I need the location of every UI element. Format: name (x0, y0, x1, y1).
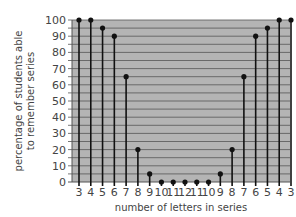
y-tick-label: 70 (52, 63, 66, 76)
x-tick-label: 4 (276, 186, 283, 199)
x-tick-label: 9 (146, 186, 153, 199)
data-point (182, 179, 187, 184)
y-axis-label-line: to remember series (25, 52, 36, 150)
x-tick-label: 6 (252, 186, 259, 199)
y-axis-ticks: 0102030405060708090100 (45, 14, 66, 189)
data-point (159, 179, 164, 184)
y-tick-label: 100 (45, 14, 66, 27)
y-tick-label: 0 (59, 176, 66, 189)
x-tick-label: 3 (76, 186, 83, 199)
x-tick-label: 9 (217, 186, 224, 199)
data-point (135, 147, 140, 152)
y-tick-label: 90 (52, 30, 66, 43)
x-tick-label: 8 (229, 186, 236, 199)
x-tick-label: 6 (111, 186, 118, 199)
y-tick-label: 20 (52, 144, 66, 157)
y-tick-label: 30 (52, 127, 66, 140)
data-point (147, 171, 152, 176)
data-point (288, 17, 293, 22)
x-tick-label: 7 (240, 186, 247, 199)
y-tick-label: 80 (52, 46, 66, 59)
chart: 0102030405060708090100 34567891011121110… (0, 0, 296, 217)
data-point (124, 74, 129, 79)
data-point (194, 179, 199, 184)
data-point (88, 17, 93, 22)
data-point (253, 34, 258, 39)
data-point (100, 26, 105, 31)
gridlines (68, 20, 290, 182)
data-point (206, 179, 211, 184)
x-tick-label: 8 (134, 186, 141, 199)
data-point (76, 17, 81, 22)
data-point (265, 26, 270, 31)
y-tick-label: 60 (52, 79, 66, 92)
data-point (277, 17, 282, 22)
x-axis-label: number of letters in series (115, 202, 247, 213)
y-tick-label: 40 (52, 111, 66, 124)
x-tick-label: 4 (87, 186, 94, 199)
data-point (218, 171, 223, 176)
data-point (112, 34, 117, 39)
data-point (241, 74, 246, 79)
x-tick-label: 5 (264, 186, 271, 199)
x-tick-label: 7 (123, 186, 130, 199)
x-tick-label: 10 (202, 186, 216, 199)
data-point (171, 179, 176, 184)
y-tick-label: 50 (52, 95, 66, 108)
x-tick-label: 3 (288, 186, 295, 199)
y-tick-label: 10 (52, 160, 66, 173)
x-axis-ticks: 345678910111211109876543 (76, 186, 295, 199)
y-axis-label-line: percentage of students able (13, 31, 24, 172)
y-axis-label: percentage of students ableto remember s… (13, 31, 36, 172)
data-point (230, 147, 235, 152)
x-tick-label: 5 (99, 186, 106, 199)
